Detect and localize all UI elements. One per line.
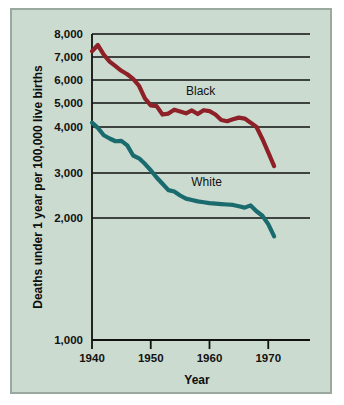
series-line-white [92,123,274,237]
x-tick-label: 1960 [197,352,223,364]
x-tick-label: 1950 [138,352,164,364]
y-axis-title: Deaths under 1 year per 100,000 live bir… [31,65,45,309]
y-tick-label: 8,000 [54,28,83,40]
y-tick-label: 6,000 [54,74,83,86]
y-tick-label: 5,000 [54,97,83,109]
y-tick-label: 3,000 [54,167,83,179]
series-line-black [92,45,274,166]
x-tick-label: 1970 [255,352,281,364]
y-tick-group: 8,0007,0006,0005,0004,0003,0002,0001,000 [54,28,83,346]
plot-area: 8,0007,0006,0005,0004,0003,0002,0001,000… [12,10,330,392]
y-tick-label: 1,000 [54,334,83,346]
y-tick-label: 2,000 [54,212,83,224]
chart-figure: 8,0007,0006,0005,0004,0003,0002,0001,000… [10,8,332,394]
series-label-black: Black [186,84,216,98]
x-axis-title: Year [184,373,210,387]
x-tick-label: 1940 [79,352,105,364]
series-label-white: White [191,175,222,189]
y-tick-label: 4,000 [54,121,83,133]
data-series-group [92,45,274,236]
line-chart-svg: 8,0007,0006,0005,0004,0003,0002,0001,000… [12,10,330,392]
y-tick-label: 7,000 [54,51,83,63]
x-tick-group: 1940195019601970 [79,340,281,364]
